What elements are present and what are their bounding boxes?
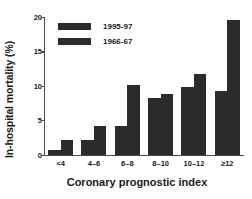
legend-label-series-1: 1995-97 [103, 22, 132, 31]
legend-item: 1995-97 [58, 19, 132, 34]
x-axis-tick-label: 10–12 [177, 159, 210, 173]
bar-group [211, 17, 244, 155]
bar-series-1 [181, 87, 194, 155]
bar-group [177, 17, 210, 155]
legend-item: 1966-67 [58, 34, 132, 49]
legend-swatch-series-1 [58, 23, 91, 30]
x-axis-tick-label: 8–10 [144, 159, 177, 173]
legend-swatch-series-2 [58, 38, 91, 45]
bar-series-2 [127, 85, 140, 155]
bar-series-2 [194, 74, 207, 155]
bar-series-1 [48, 150, 61, 155]
x-axis-tick-label: ≥12 [211, 159, 244, 173]
y-axis-tick-labels: 05101520 [22, 10, 42, 162]
bar-series-2 [227, 20, 240, 154]
bar-series-2 [94, 126, 107, 155]
x-axis-tick-label: <4 [44, 159, 77, 173]
bar-series-2 [161, 94, 174, 155]
bar-chart-figure: In-hospital mortality (%) 05101520 <44–6… [0, 0, 252, 199]
bar-series-1 [215, 91, 228, 154]
chart-legend: 1995-97 1966-67 [58, 19, 132, 49]
y-axis-tick-mark [41, 120, 45, 121]
y-axis-tick-mark [41, 155, 45, 156]
y-axis-tick-mark [41, 17, 45, 18]
bar-series-2 [61, 140, 74, 155]
bar-group [144, 17, 177, 155]
x-axis-tick-label: 4–6 [77, 159, 110, 173]
y-axis-tick-mark [41, 51, 45, 52]
x-axis-tick-labels: <44–66–88–1010–12≥12 [44, 159, 244, 173]
bar-series-1 [148, 98, 161, 154]
bar-series-1 [115, 126, 128, 155]
y-axis-title: In-hospital mortality (%) [0, 0, 18, 199]
x-axis-tick-label: 6–8 [111, 159, 144, 173]
y-axis-tick-mark [41, 86, 45, 87]
x-axis-line [44, 155, 244, 156]
bar-series-1 [81, 140, 94, 155]
legend-label-series-2: 1966-67 [103, 37, 132, 46]
x-axis-title: Coronary prognostic index [30, 176, 244, 188]
